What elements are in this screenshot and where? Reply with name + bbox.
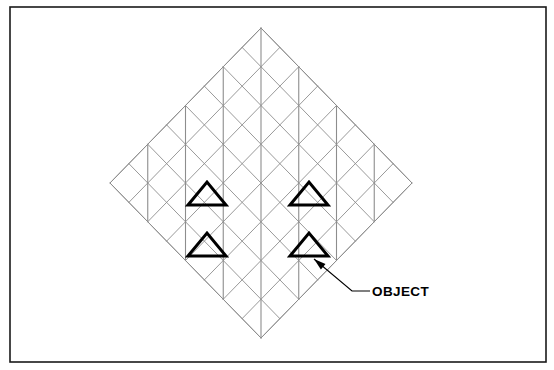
- figure-border: [10, 7, 546, 362]
- technical-diagram: OBJECT: [0, 0, 554, 370]
- lattice-vertical-lines: [148, 28, 375, 338]
- object-label: OBJECT: [372, 284, 430, 299]
- figure-screenshot: OBJECT: [0, 0, 554, 370]
